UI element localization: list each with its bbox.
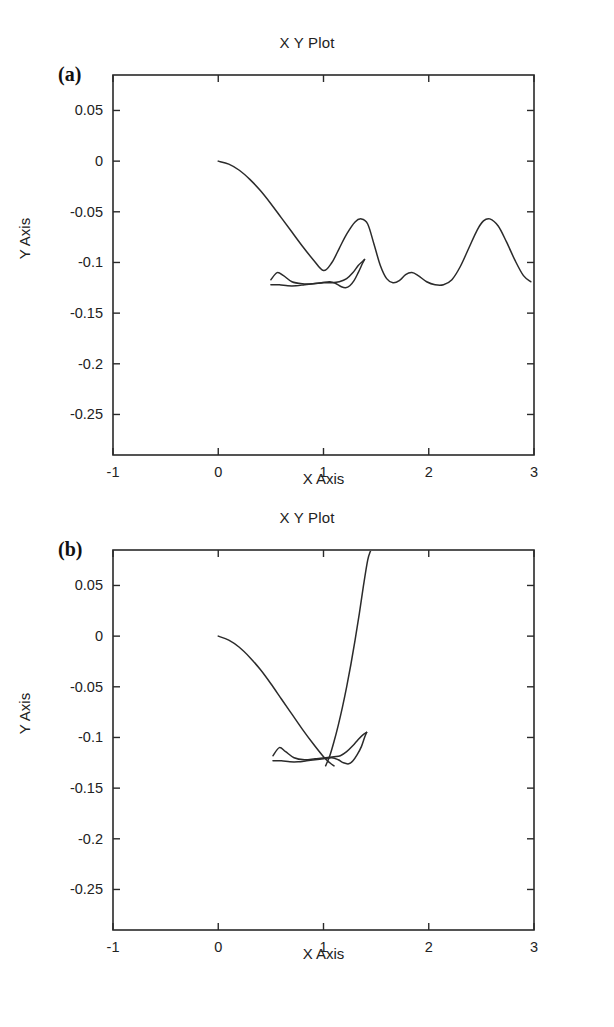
plot-panel-a: X Y Plot (a) Y Axis X Axis -101230.050-0… [0, 20, 614, 510]
panel-a-ytick-label: 0.05 [75, 102, 103, 118]
panel-b-xtick-label: 0 [214, 939, 222, 955]
panel-b-ytick-label: -0.2 [78, 831, 103, 847]
panel-a-curve-descending-then-oscillating [218, 161, 531, 285]
panel-b-ytick-label: 0 [95, 628, 103, 644]
panel-b-axes-frame [113, 550, 534, 930]
panel-a-ytick-label: -0.2 [78, 356, 103, 372]
panel-a-xtick-label: 3 [530, 464, 538, 480]
panel-b-series-group [218, 550, 371, 766]
figure-xy-plots: X Y Plot (a) Y Axis X Axis -101230.050-0… [0, 0, 614, 1027]
panel-a-ytick-label: 0 [95, 153, 103, 169]
panel-a-series-group [218, 161, 531, 288]
panel-a-xtick-label: 2 [425, 464, 433, 480]
panel-a-xtick-label: 1 [319, 464, 327, 480]
panel-b-ytick-label: -0.25 [70, 881, 103, 897]
panel-a-ytick-label: -0.05 [70, 204, 103, 220]
panel-b-ytick-label: 0.05 [75, 577, 103, 593]
panel-b-ytick-label: -0.15 [70, 780, 103, 796]
panel-b-xtick-label: 2 [425, 939, 433, 955]
panel-b-xtick-label: -1 [107, 939, 120, 955]
panel-a-xtick-label: -1 [107, 464, 120, 480]
panel-a-curve-flat-loop-lower [271, 259, 365, 287]
panel-b-curve-descending-branch [218, 636, 334, 766]
panel-b-plot-area: -101230.050-0.05-0.1-0.15-0.2-0.25 [0, 495, 614, 985]
panel-b-curve-flat-loop-lower [273, 732, 367, 764]
panel-b-curve-flat-loop-upper [273, 732, 367, 759]
panel-a-ytick-label: -0.25 [70, 406, 103, 422]
panel-b-ytick-label: -0.1 [78, 729, 103, 745]
panel-b-xtick-label: 1 [319, 939, 327, 955]
panel-b-xtick-label: 3 [530, 939, 538, 955]
panel-a-curve-flat-loop-upper [271, 259, 365, 284]
panel-a-axes-frame [113, 75, 534, 455]
panel-a-plot-area: -101230.050-0.05-0.1-0.15-0.2-0.25 [0, 20, 614, 510]
panel-a-ytick-label: -0.1 [78, 254, 103, 270]
panel-b-ytick-label: -0.05 [70, 679, 103, 695]
panel-a-ytick-label: -0.15 [70, 305, 103, 321]
plot-panel-b: X Y Plot (b) Y Axis X Axis -101230.050-0… [0, 495, 614, 985]
panel-a-xtick-label: 0 [214, 464, 222, 480]
